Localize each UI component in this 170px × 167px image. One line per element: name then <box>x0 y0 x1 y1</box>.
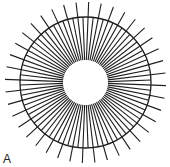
radial-line <box>31 46 67 70</box>
outer-circle <box>20 17 151 148</box>
radial-line <box>86 105 88 148</box>
radial-line <box>20 83 63 85</box>
long-radial-line <box>107 90 161 110</box>
long-radial-line <box>82 105 84 163</box>
radial-line <box>45 31 72 65</box>
radial-line <box>108 80 151 82</box>
radial-line-diagram <box>0 0 170 167</box>
long-radial-line <box>10 55 64 75</box>
radial-line <box>83 17 85 60</box>
radial-line <box>99 100 126 134</box>
radial-line <box>49 101 73 137</box>
long-radial-line <box>86 2 88 60</box>
radial-line <box>104 95 140 119</box>
long-radial-line <box>5 79 63 81</box>
radial-line <box>98 28 122 64</box>
panel-label: A <box>3 152 11 166</box>
radial-lines <box>5 2 166 163</box>
radial-line <box>34 96 68 123</box>
long-radial-line <box>58 104 78 158</box>
long-radial-line <box>93 7 113 61</box>
radial-line <box>103 42 137 69</box>
long-radial-line <box>108 83 166 85</box>
